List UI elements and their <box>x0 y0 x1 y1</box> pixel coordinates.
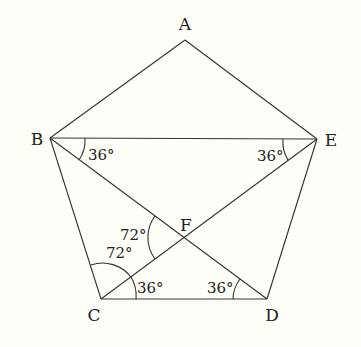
vertex-label-F: F <box>180 215 192 235</box>
angle-label-EBD: 36° <box>88 146 115 164</box>
angle-label-BCF: 72° <box>106 244 133 262</box>
vertex-label-D: D <box>265 305 279 325</box>
edge-AB <box>50 40 185 138</box>
arc-angle-F <box>148 216 155 259</box>
edge-CE <box>101 139 317 299</box>
edge-BE <box>50 138 317 139</box>
angle-label-CFB: 72° <box>120 226 147 244</box>
vertex-label-A: A <box>178 14 192 34</box>
pentagon-diagram: A B C D E F 36° 36° 72° 72° 36° 36° <box>0 0 361 347</box>
arc-angle-D <box>233 279 240 299</box>
edge-AE <box>185 40 317 139</box>
arc-angle-B <box>79 138 85 160</box>
angle-label-FDC: 36° <box>207 279 234 297</box>
arc-angle-E <box>283 139 288 160</box>
vertex-label-E: E <box>325 130 337 150</box>
vertex-label-C: C <box>87 305 100 325</box>
diagram-canvas: A B C D E F 36° 36° 72° 72° 36° 36° <box>0 0 361 347</box>
vertex-label-B: B <box>31 129 44 149</box>
angle-label-BEC: 36° <box>257 147 284 165</box>
edge-BD <box>50 138 267 299</box>
arc-angle-C-large <box>91 263 131 277</box>
angle-label-FCD: 36° <box>137 279 164 297</box>
arc-angle-C-small <box>131 277 136 299</box>
